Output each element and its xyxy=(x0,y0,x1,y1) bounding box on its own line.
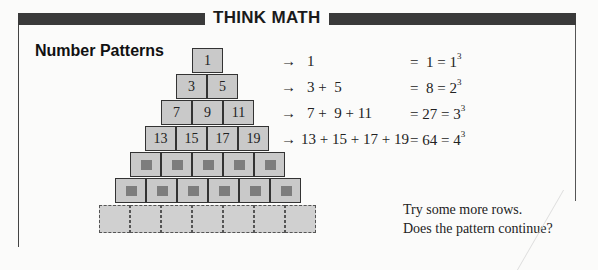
equation-lhs: 13 + 15 + 17 + 19 xyxy=(301,131,409,148)
equation-arrow: → xyxy=(281,131,296,148)
section-title: Number Patterns xyxy=(35,42,164,60)
pyramid-empty-cell xyxy=(130,205,161,233)
pyramid-hidden-cell xyxy=(115,178,146,203)
pyramid-hidden-cell xyxy=(161,152,192,177)
pyramid-cell: 17 xyxy=(207,126,238,151)
pyramid-cell: 11 xyxy=(223,100,254,125)
pyramid-cell: 15 xyxy=(176,126,207,151)
pyramid-hidden-cell xyxy=(254,152,285,177)
pyramid-hidden-cell xyxy=(146,178,177,203)
equation-result: = 1 = 13 xyxy=(410,53,461,71)
equation-result: = 8 = 23 xyxy=(410,79,461,97)
equation-result: = 64 = 43 xyxy=(410,131,465,149)
equation-lhs: 1 xyxy=(307,53,315,70)
pyramid-empty-cell xyxy=(99,205,130,233)
equation-arrow: → xyxy=(281,53,296,70)
pyramid-cell: 1 xyxy=(192,48,223,73)
equation-result: = 27 = 33 xyxy=(410,105,465,123)
pyramid-hidden-cell xyxy=(177,178,208,203)
pyramid-cell: 5 xyxy=(207,74,238,99)
equation-arrow: → xyxy=(281,105,296,122)
pyramid-hidden-cell xyxy=(239,178,270,203)
pyramid-hidden-cell xyxy=(270,178,301,203)
pyramid-cell: 19 xyxy=(238,126,269,151)
equation-lhs: 3 + 5 xyxy=(307,79,342,96)
prompt-line-1: Try some more rows. xyxy=(403,202,522,218)
pyramid-empty-cell xyxy=(223,205,254,233)
pyramid-cell: 3 xyxy=(176,74,207,99)
pyramid-cell: 13 xyxy=(145,126,176,151)
equation-lhs: 7 + 9 + 11 xyxy=(307,105,372,122)
pyramid-empty-cell xyxy=(254,205,285,233)
pyramid-hidden-cell xyxy=(192,152,223,177)
header-title: THINK MATH xyxy=(205,8,329,28)
pyramid-empty-cell xyxy=(161,205,192,233)
pyramid-empty-cell xyxy=(285,205,316,233)
prompt-line-2: Does the pattern continue? xyxy=(403,221,553,237)
frame-left-border xyxy=(18,25,19,247)
pyramid-hidden-cell xyxy=(208,178,239,203)
pyramid-cell: 7 xyxy=(161,100,192,125)
pyramid-hidden-cell xyxy=(130,152,161,177)
frame-right-border xyxy=(575,25,576,201)
pyramid-empty-cell xyxy=(192,205,223,233)
pyramid-hidden-cell xyxy=(223,152,254,177)
pyramid-cell: 9 xyxy=(192,100,223,125)
equation-arrow: → xyxy=(281,79,296,96)
